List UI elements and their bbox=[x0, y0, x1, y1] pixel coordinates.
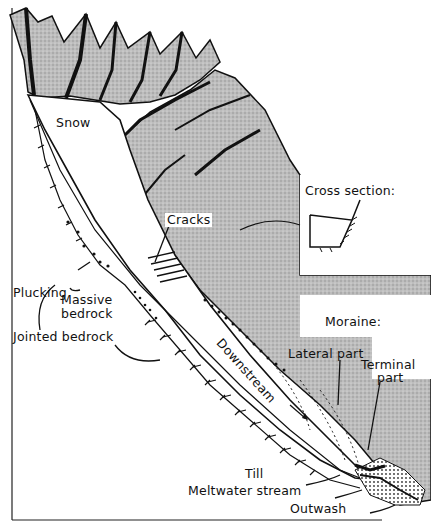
label-massive-bedrock-line1: Massive bbox=[61, 293, 112, 307]
label-cross-section: Cross section: bbox=[305, 184, 395, 198]
label-massive-bedrock-line2: bedrock bbox=[61, 307, 113, 321]
label-plucking: Plucking bbox=[13, 286, 67, 300]
label-jointed-bedrock: Jointed bedrock bbox=[13, 330, 113, 344]
label-terminal-part-line2: part bbox=[377, 371, 403, 385]
label-moraine: Moraine: bbox=[325, 315, 381, 329]
label-lateral-part: Lateral part bbox=[288, 347, 364, 361]
label-snow: Snow bbox=[56, 116, 91, 130]
glacier-diagram bbox=[0, 0, 431, 526]
label-till: Till bbox=[245, 467, 263, 481]
label-meltwater-stream: Meltwater stream bbox=[188, 484, 301, 498]
label-outwash: Outwash bbox=[290, 502, 346, 516]
mountain-ridge bbox=[10, 8, 220, 104]
label-cracks: Cracks bbox=[165, 213, 212, 227]
